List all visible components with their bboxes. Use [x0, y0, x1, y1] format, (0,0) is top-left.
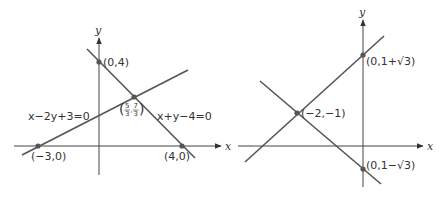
svg-text:3: 3	[125, 110, 129, 118]
left-x-axis-label: x	[225, 140, 232, 153]
diagram-canvas: x y (0,4) ( 5 3 , 7 3 ) (−3,0) (4,0) x−2…	[0, 0, 443, 198]
point-neg3-0	[35, 143, 40, 148]
svg-text:): )	[139, 101, 144, 117]
equation-x-plus-y-minus-4: x+y−4=0	[157, 110, 212, 123]
svg-text:3: 3	[134, 110, 138, 118]
right-y-axis-label: y	[358, 6, 366, 19]
point-0-1-minus-sqrt3	[360, 166, 365, 171]
point-intersection-5-3-7-3	[131, 94, 136, 99]
svg-text:(: (	[119, 101, 124, 117]
point-4-0	[179, 143, 184, 148]
point-0-1-plus-sqrt3	[360, 52, 365, 57]
label-0-1-plus-sqrt3: (0,1+√3)	[366, 55, 415, 68]
label-neg2-neg1: (−2,−1)	[301, 107, 346, 120]
left-y-axis-label: y	[94, 24, 102, 37]
svg-text:,: ,	[131, 106, 133, 114]
point-neg2-neg1	[294, 110, 299, 115]
right-diagram: x x y (0,1+√3) (−2,−1) (0,1−√3)	[238, 6, 434, 187]
label-4-0: (4,0)	[164, 150, 190, 163]
svg-text:5: 5	[125, 102, 129, 110]
svg-text:7: 7	[134, 102, 138, 110]
left-diagram: x y (0,4) ( 5 3 , 7 3 ) (−3,0) (4,0) x−2…	[14, 24, 232, 175]
label-0-1-minus-sqrt3: (0,1−√3)	[366, 159, 415, 172]
label-neg3-0: (−3,0)	[31, 150, 66, 163]
label-0-4: (0,4)	[103, 56, 129, 69]
point-0-4	[96, 59, 101, 64]
equation-x-minus-2y-plus-3: x−2y+3=0	[28, 110, 90, 123]
right-x-axis-label: x	[427, 140, 434, 153]
label-intersection-fraction: ( 5 3 , 7 3 )	[119, 101, 144, 118]
